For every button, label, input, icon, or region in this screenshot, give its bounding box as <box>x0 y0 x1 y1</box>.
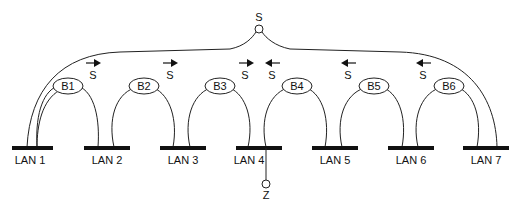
root-node-s <box>255 25 263 33</box>
bridge-b2-label: B2 <box>137 80 150 92</box>
root-direction-arrows: S S S S S S <box>86 59 431 81</box>
bridge-b5-arch <box>340 88 404 147</box>
bridge-links <box>37 86 479 147</box>
arrow-1-label: S <box>89 69 96 81</box>
bridge-b1-arch <box>37 86 99 147</box>
leaf-node-label: Z <box>263 189 270 201</box>
bridge-b6-arch <box>416 88 479 147</box>
arrow-left-icon <box>265 59 280 67</box>
root-node-label: S <box>255 11 262 23</box>
bridge-b5-label: B5 <box>367 80 380 92</box>
bridge-topology-diagram: S B1 B2 B3 B4 B5 B6 S <box>0 0 514 211</box>
lan-7-label: LAN 7 <box>471 154 502 166</box>
bridge-b1-left <box>37 90 60 147</box>
bridge-b6-label: B6 <box>442 80 455 92</box>
arrow-3-label: S <box>241 69 248 81</box>
leaf-node-z <box>262 180 270 188</box>
lan-4-label: LAN 4 <box>234 154 265 166</box>
lan-6-label: LAN 6 <box>396 154 427 166</box>
arrow-left-icon <box>341 59 356 67</box>
lan-2-label: LAN 2 <box>92 154 123 166</box>
arrow-5-label: S <box>344 69 351 81</box>
arrow-2-label: S <box>166 69 173 81</box>
bridge-b2-arch <box>112 88 175 147</box>
lan-5-label: LAN 5 <box>320 154 351 166</box>
arrow-right-icon <box>86 59 101 67</box>
arrow-right-icon <box>163 59 178 67</box>
lan-3-label: LAN 3 <box>168 154 199 166</box>
lans: LAN 1 LAN 2 LAN 3 LAN 4 LAN 5 LAN 6 LAN … <box>12 148 509 166</box>
arrow-right-icon <box>239 59 254 67</box>
bridges: B1 B2 B3 B4 B5 B6 <box>53 78 464 94</box>
arrow-left-icon <box>416 59 431 67</box>
bridge-b1-label: B1 <box>61 80 74 92</box>
bridge-b3-label: B3 <box>213 80 226 92</box>
arrow-4-label: S <box>268 69 275 81</box>
arrow-6-label: S <box>419 69 426 81</box>
lan-1-label: LAN 1 <box>15 154 46 166</box>
bridge-b4-arch <box>264 88 327 147</box>
bridge-b3-arch <box>188 88 250 147</box>
bridge-b4-label: B4 <box>290 80 303 92</box>
